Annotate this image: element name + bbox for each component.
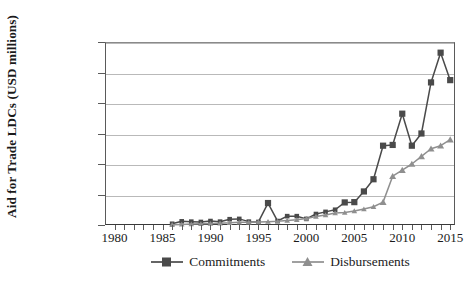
- x-tick-label: 1990: [187, 231, 233, 245]
- y-tick-mark: [98, 134, 105, 135]
- x-tick-label: 1995: [235, 231, 281, 245]
- x-tick-label: 1980: [92, 231, 138, 245]
- y-tick-mark: [98, 225, 105, 226]
- y-tick-mark: [98, 164, 105, 165]
- x-tick-mark: [383, 225, 384, 230]
- series-disbursements: [169, 136, 453, 227]
- x-tick-mark: [326, 225, 327, 230]
- x-tick-mark: [287, 225, 288, 230]
- legend-item-disbursements: Disbursements: [291, 255, 410, 268]
- triangle-marker-icon: [291, 256, 325, 268]
- data-point-marker: [409, 143, 415, 149]
- data-point-marker: [428, 79, 434, 85]
- data-point-marker: [447, 136, 454, 142]
- legend-label-commitments: Commitments: [189, 255, 265, 268]
- data-point-marker: [380, 143, 386, 149]
- x-tick-label: 1985: [140, 231, 186, 245]
- data-point-marker: [418, 130, 424, 136]
- x-tick-mark: [143, 225, 144, 230]
- series-line: [172, 53, 450, 224]
- x-tick-label: 2010: [379, 231, 425, 245]
- data-point-marker: [370, 176, 376, 182]
- chart-legend: Commitments Disbursements: [105, 251, 455, 273]
- series-line: [172, 140, 450, 225]
- data-point-marker: [285, 214, 290, 219]
- x-tick-label: 2015: [427, 231, 468, 245]
- data-point-marker: [265, 200, 271, 206]
- x-tick-mark: [230, 225, 231, 230]
- square-marker-icon: [150, 256, 184, 268]
- data-point-marker: [342, 199, 348, 205]
- x-tick-mark: [134, 225, 135, 230]
- data-point-marker: [447, 77, 453, 83]
- x-tick-mark: [335, 225, 336, 230]
- series-commitments: [170, 50, 453, 227]
- x-tick-mark: [373, 225, 374, 230]
- legend-label-disbursements: Disbursements: [330, 255, 410, 268]
- data-point-marker: [351, 199, 357, 205]
- x-tick-mark: [421, 225, 422, 230]
- data-point-marker: [380, 199, 387, 205]
- legend-item-commitments: Commitments: [150, 255, 265, 268]
- x-tick-label: 2005: [331, 231, 377, 245]
- data-point-marker: [399, 111, 405, 117]
- x-tick-mark: [239, 225, 240, 230]
- x-tick-mark: [191, 225, 192, 230]
- x-tick-label: 2000: [283, 231, 329, 245]
- data-point-marker: [361, 188, 367, 194]
- x-tick-mark: [278, 225, 279, 230]
- y-tick-mark: [98, 42, 105, 43]
- y-tick-mark: [98, 103, 105, 104]
- y-tick-mark: [98, 195, 105, 196]
- x-tick-mark: [431, 225, 432, 230]
- y-tick-mark: [98, 73, 105, 74]
- x-tick-mark: [182, 225, 183, 230]
- data-point-marker: [390, 142, 396, 148]
- data-point-marker: [438, 50, 444, 56]
